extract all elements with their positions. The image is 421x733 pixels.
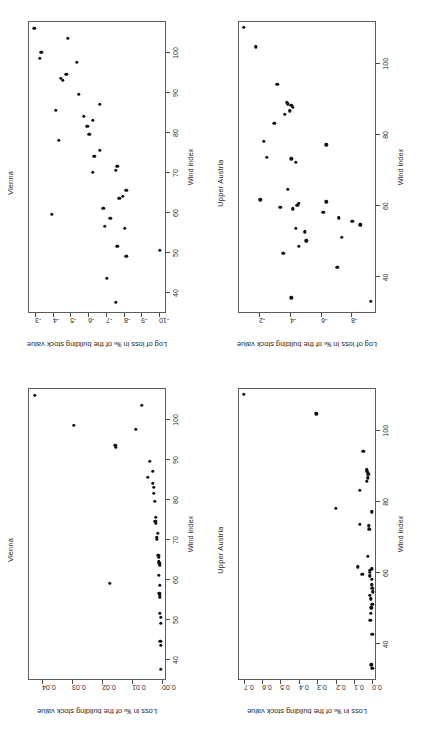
data-point bbox=[370, 586, 373, 589]
panel-vienna-log: Vienna405060708090100-3-4-5-6-7-8-9-10Wi… bbox=[0, 0, 211, 366]
data-point bbox=[122, 226, 125, 229]
x-tick bbox=[166, 132, 170, 133]
data-point bbox=[157, 583, 160, 586]
data-point bbox=[357, 488, 360, 491]
data-point bbox=[261, 139, 264, 142]
x-tick-label: 60 bbox=[382, 202, 389, 210]
x-tick bbox=[166, 539, 170, 540]
data-point bbox=[158, 639, 161, 642]
y-tick-label: 0.03 bbox=[71, 683, 85, 690]
data-point bbox=[368, 593, 371, 596]
data-point bbox=[241, 392, 244, 395]
data-point bbox=[361, 449, 364, 452]
data-point bbox=[287, 109, 290, 112]
data-point bbox=[152, 485, 155, 488]
y-tick-label: -4 bbox=[52, 317, 58, 324]
panel-title: Vienna bbox=[6, 374, 15, 726]
data-point bbox=[358, 223, 361, 226]
data-point bbox=[370, 509, 373, 512]
data-point bbox=[366, 524, 369, 527]
data-point bbox=[76, 92, 79, 95]
data-point bbox=[75, 60, 78, 63]
y-axis-label: Loss in ‰ of the building stock value bbox=[37, 707, 157, 716]
data-point bbox=[370, 632, 373, 635]
scatter-plot-upper-austria-linear: Upper Austria4060801000.00.10.20.30.40.5… bbox=[216, 374, 416, 726]
x-tick-label: 80 bbox=[382, 131, 389, 139]
data-point bbox=[108, 581, 111, 584]
data-point bbox=[369, 597, 372, 600]
data-point bbox=[158, 621, 161, 624]
data-point bbox=[146, 475, 149, 478]
data-point bbox=[297, 244, 300, 247]
x-tick bbox=[376, 276, 380, 277]
x-axis-label: Wind index bbox=[186, 149, 195, 186]
data-point bbox=[37, 56, 40, 59]
x-tick-label: 100 bbox=[382, 424, 389, 436]
x-tick bbox=[376, 572, 380, 573]
x-tick-label: 100 bbox=[172, 414, 179, 426]
data-point bbox=[369, 300, 372, 303]
panel-title: Upper Austria bbox=[216, 374, 225, 726]
data-point bbox=[286, 187, 289, 190]
data-point bbox=[158, 248, 161, 251]
data-point bbox=[72, 423, 75, 426]
data-point bbox=[278, 205, 281, 208]
data-point bbox=[90, 170, 93, 173]
x-tick-label: 70 bbox=[172, 169, 179, 177]
data-point bbox=[159, 643, 162, 646]
data-point bbox=[82, 114, 85, 117]
data-point bbox=[98, 102, 101, 105]
data-point bbox=[151, 491, 154, 494]
data-point bbox=[117, 196, 120, 199]
plot-frame bbox=[238, 388, 376, 680]
data-point bbox=[33, 393, 36, 396]
data-point bbox=[370, 582, 373, 585]
data-point bbox=[50, 212, 53, 215]
data-point bbox=[153, 515, 156, 518]
data-point bbox=[157, 573, 160, 576]
data-point bbox=[369, 663, 372, 666]
y-tick-label: 0.3 bbox=[317, 683, 327, 690]
y-axis-label: Loss in ‰ of the building stock value bbox=[247, 707, 367, 716]
data-point bbox=[134, 427, 137, 430]
x-tick bbox=[166, 459, 170, 460]
data-point bbox=[360, 572, 363, 575]
panel-title: Upper Austria bbox=[216, 7, 225, 359]
data-point-layer bbox=[29, 22, 165, 312]
x-axis-label: Wind index bbox=[186, 515, 195, 552]
x-axis-label: Wind index bbox=[396, 149, 405, 186]
y-tick-label: 0.7 bbox=[243, 683, 253, 690]
data-point bbox=[324, 200, 327, 203]
data-point bbox=[368, 618, 371, 621]
x-tick bbox=[166, 52, 170, 53]
data-point bbox=[370, 590, 373, 593]
data-point-layer bbox=[239, 389, 375, 679]
plot-frame bbox=[28, 388, 166, 680]
data-point bbox=[264, 155, 267, 158]
figure-page: Vienna405060708090100-3-4-5-6-7-8-9-10Wi… bbox=[0, 0, 421, 733]
y-tick-label: -6 bbox=[320, 317, 326, 324]
data-point bbox=[294, 161, 297, 164]
data-point bbox=[335, 266, 338, 269]
x-tick bbox=[376, 205, 380, 206]
data-point bbox=[289, 104, 292, 107]
x-tick-label: 90 bbox=[172, 456, 179, 464]
y-tick-label: -5 bbox=[70, 317, 76, 324]
data-point bbox=[314, 412, 317, 415]
data-point bbox=[153, 519, 156, 522]
x-tick-label: 90 bbox=[172, 89, 179, 97]
data-point bbox=[333, 506, 336, 509]
data-point bbox=[155, 535, 158, 538]
data-point bbox=[85, 124, 88, 127]
data-point bbox=[366, 554, 369, 557]
x-tick-label: 60 bbox=[172, 576, 179, 584]
x-tick bbox=[166, 252, 170, 253]
y-tick-label: -4 bbox=[290, 317, 296, 324]
x-tick-label: 80 bbox=[382, 498, 389, 506]
data-point bbox=[124, 254, 127, 257]
data-point bbox=[303, 230, 306, 233]
panel-upper-austria-log: Upper Austria406080100-2-4-6-8Wind index… bbox=[210, 0, 421, 366]
x-tick-label: 40 bbox=[172, 289, 179, 297]
data-point bbox=[358, 522, 361, 525]
x-tick bbox=[166, 92, 170, 93]
